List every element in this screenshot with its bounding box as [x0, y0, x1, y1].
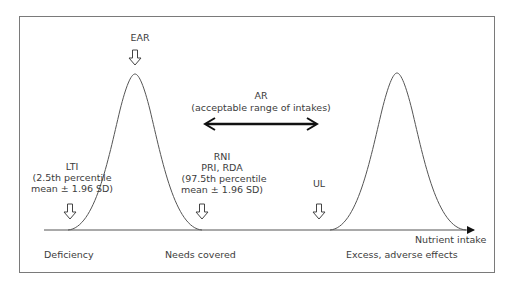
zone-deficiency-label: Deficiency: [44, 249, 94, 261]
ear-arrow-icon: [129, 50, 141, 65]
ar-title: AR: [201, 90, 321, 102]
ear-label: EAR: [120, 32, 160, 44]
ul-arrow-icon: [313, 204, 325, 219]
rni-label-line4: mean ± 1.96 SD): [179, 184, 265, 196]
lti-arrow-icon: [64, 204, 76, 219]
lti-label-line3: mean ± 1.96 SD): [30, 183, 114, 195]
rni-arrow-icon: [196, 204, 208, 219]
zone-needs-covered-label: Needs covered: [165, 249, 231, 261]
ar-range-arrow-icon: [205, 118, 317, 130]
x-axis-label: Nutrient intake: [415, 234, 485, 246]
ar-subtitle: (acceptable range of intakes): [191, 102, 331, 114]
adverse-effects-curve: [330, 73, 466, 230]
ul-label: UL: [309, 178, 329, 190]
zone-excess-label: Excess, adverse effects: [346, 249, 446, 261]
